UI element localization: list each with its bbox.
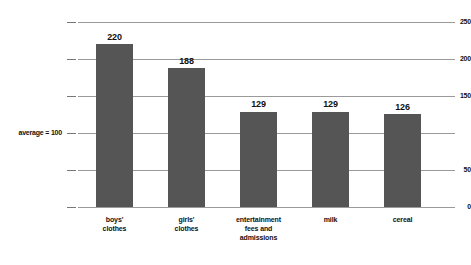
bar-value-boys-clothes: 220 <box>96 32 133 42</box>
bar-value-entertainment-fees-and-admissions: 129 <box>240 99 277 109</box>
y-axis-tick <box>67 22 76 23</box>
category-label-milk: milk <box>292 215 369 224</box>
bar-chart: 250 200 150 average = 100 50 0 220 188 1… <box>0 0 471 265</box>
y-axis-tick <box>67 133 76 134</box>
category-label-entertainment-fees-and-admissions: entertainment fees and admissions <box>220 215 297 242</box>
bar-value-cereal: 126 <box>384 102 421 112</box>
bar-value-girls-clothes: 188 <box>168 56 205 66</box>
category-label-boys-clothes: boys' clothes <box>76 215 153 233</box>
bar-milk[interactable] <box>312 112 349 208</box>
y-axis-label-average-100: average = 100 <box>0 129 62 137</box>
category-label-line: milk <box>292 215 369 224</box>
category-label-line: entertainment <box>220 215 297 224</box>
y-axis-tick <box>67 170 76 171</box>
y-axis-tick <box>67 59 76 60</box>
category-label-cereal: cereal <box>364 215 441 224</box>
category-label-line: clothes <box>76 224 153 233</box>
y-axis-tick <box>67 207 76 208</box>
bar-boys-clothes[interactable] <box>96 44 133 207</box>
category-label-line: admissions <box>220 233 297 242</box>
bar-entertainment-fees-and-admissions[interactable] <box>240 112 277 208</box>
category-label-line: fees and <box>220 224 297 233</box>
category-label-line: boys' <box>76 215 153 224</box>
category-label-line: cereal <box>364 215 441 224</box>
y-axis-tick <box>67 96 76 97</box>
bars-layer <box>78 22 455 207</box>
category-label-line: clothes <box>148 224 225 233</box>
gridline <box>78 207 455 208</box>
bar-cereal[interactable] <box>384 114 421 207</box>
category-label-girls-clothes: girls' clothes <box>148 215 225 233</box>
bar-value-milk: 129 <box>312 99 349 109</box>
bar-girls-clothes[interactable] <box>168 68 205 207</box>
category-label-line: girls' <box>148 215 225 224</box>
